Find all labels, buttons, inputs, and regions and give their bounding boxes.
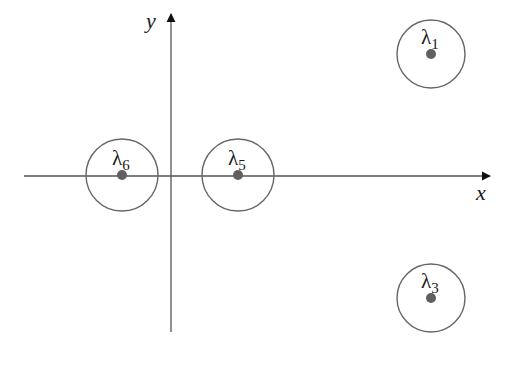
eigenvalue-label: λ1: [421, 25, 439, 52]
eigenvalue-3: λ3: [397, 264, 465, 332]
diagram-canvas: x y λ6λ5λ1λ3: [0, 0, 506, 370]
y-axis-label: y: [144, 8, 156, 33]
eigenvalue-5: λ5: [202, 139, 274, 211]
complex-plane-diagram: x y λ6λ5λ1λ3: [0, 0, 506, 370]
x-axis-label: x: [475, 180, 486, 205]
eigenvalue-label: λ6: [112, 146, 130, 173]
eigenvalue-6: λ6: [86, 139, 158, 211]
eigenvalue-1: λ1: [397, 20, 465, 88]
eigenvalue-label: λ3: [421, 269, 439, 296]
eigenvalue-label: λ5: [228, 146, 246, 173]
